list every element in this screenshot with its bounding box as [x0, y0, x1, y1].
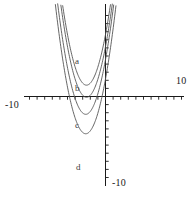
curve-label-a: a — [75, 57, 79, 66]
parabola-family-plot — [0, 0, 196, 197]
curve-label-d: d — [76, 163, 81, 172]
y-axis-min-label: -10 — [112, 178, 126, 188]
x-axis-min-label: -10 — [5, 100, 19, 110]
x-axis-max-label: 10 — [176, 76, 186, 86]
curve-label-b: b — [75, 84, 80, 93]
curve-label-c: c — [75, 121, 79, 130]
